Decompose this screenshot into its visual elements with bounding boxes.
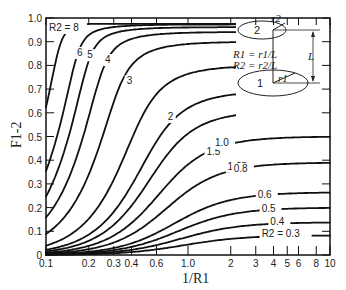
inset-diagram: 2 1 r2 r1 L R1 = r1/L R2 = r2/L bbox=[232, 12, 330, 134]
disk-1-label: 1 bbox=[257, 77, 263, 89]
series-label-r2-0_3: R2 = 0.3 bbox=[262, 228, 301, 239]
y-tick-label: 0.6 bbox=[28, 108, 42, 119]
series-label-r2-0_4: 0.4 bbox=[270, 216, 284, 227]
disk-2-label: 2 bbox=[254, 24, 260, 36]
series-label-r2-4: 4 bbox=[105, 54, 111, 65]
x-tick-label: 6 bbox=[296, 258, 302, 269]
x-axis-title: 1/R1 bbox=[182, 271, 209, 286]
y-tick-label: 0.4 bbox=[28, 155, 42, 166]
series-label-r2-0_8: 0.8 bbox=[234, 163, 248, 174]
series-label-r2-6: 6 bbox=[77, 47, 83, 58]
x-tick-label: 5 bbox=[284, 258, 290, 269]
y-tick-label: 0.2 bbox=[28, 203, 42, 214]
series-label-r2-0_5: 0.5 bbox=[262, 203, 276, 214]
series-label-r2-3: 3 bbox=[127, 75, 133, 86]
view-factor-chart: 2 1 r2 r1 L R1 = r1/L R2 = r2/L 0.10.20.… bbox=[0, 0, 346, 290]
spacing-label: L bbox=[307, 50, 314, 62]
y-tick-label: 0.3 bbox=[28, 179, 42, 190]
y-tick-label: 0.5 bbox=[28, 132, 42, 143]
x-tick-label: 2 bbox=[228, 258, 234, 269]
x-tick-label: 0.6 bbox=[150, 258, 164, 269]
x-tick-label: 4 bbox=[271, 258, 277, 269]
x-tick-label: 0.3 bbox=[107, 258, 121, 269]
y-tick-label: 0.1 bbox=[28, 226, 42, 237]
y-tick-label: 0.8 bbox=[28, 60, 42, 71]
series-label-r2-2: 2 bbox=[168, 111, 174, 122]
radius-r1-label: r1 bbox=[278, 72, 288, 84]
y-tick-label: 0.7 bbox=[28, 84, 42, 95]
y-tick-label: 0.9 bbox=[28, 37, 42, 48]
series-label-r2-8: R2 = 8 bbox=[49, 22, 79, 33]
y-tick-label: 1.0 bbox=[28, 13, 42, 24]
series-label-r2-0_6: 0.6 bbox=[258, 189, 272, 200]
x-tick-label: 0.4 bbox=[125, 258, 139, 269]
x-tick-label: 1.0 bbox=[181, 258, 195, 269]
x-tick-label: 10 bbox=[324, 258, 336, 269]
series-label-r2-1: 1.0 bbox=[215, 137, 229, 148]
x-tick-label: 0.2 bbox=[82, 258, 96, 269]
x-tick-label: 3 bbox=[253, 258, 259, 269]
y-axis-title: F1-2 bbox=[9, 122, 24, 148]
formula-r2: R2 = r2/L bbox=[232, 59, 277, 71]
y-tick-label: 0 bbox=[36, 250, 42, 261]
x-tick-label: 8 bbox=[313, 258, 319, 269]
series-label-r2-5: 5 bbox=[87, 49, 93, 60]
